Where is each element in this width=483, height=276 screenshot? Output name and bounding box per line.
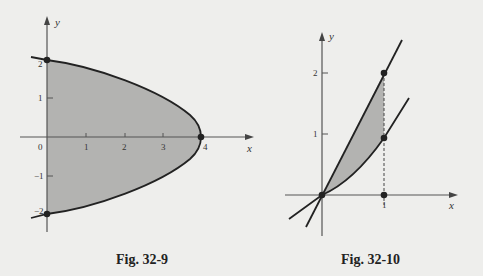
point-origin	[319, 192, 326, 199]
x-axis-arrow-icon	[449, 192, 458, 198]
x-tick-1-32-10: 1	[382, 200, 387, 210]
point-1-0	[381, 192, 388, 199]
caption-fig-32-10: Fig. 32-10	[341, 252, 400, 268]
point-1-2	[381, 70, 388, 77]
caption-fig-32-9: Fig. 32-9	[116, 252, 168, 268]
y-tick-1-32-10: 1	[313, 129, 318, 139]
point-1-1	[381, 135, 388, 142]
y-axis-arrow-icon	[319, 32, 325, 41]
x-axis-label-32-10: x	[448, 199, 454, 211]
figure-32-10: y x 2 1 1	[0, 0, 483, 276]
y-axis-label-32-10: y	[328, 30, 334, 42]
y-tick-2-32-10: 2	[313, 68, 318, 78]
